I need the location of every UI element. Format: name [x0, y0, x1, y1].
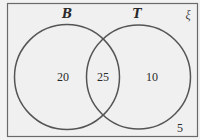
outside-value: 5 [177, 121, 183, 135]
set-t-label: T [133, 7, 143, 21]
intersection-value: 25 [97, 70, 109, 84]
venn-canvas: B T ξ 20 25 10 5 [0, 0, 200, 140]
set-b-label: B [61, 7, 72, 21]
venn-diagram: B T ξ 20 25 10 5 [0, 0, 200, 140]
universal-set-label: ξ [185, 8, 191, 22]
set-t-only-value: 10 [146, 70, 158, 84]
set-b-only-value: 20 [57, 70, 69, 84]
